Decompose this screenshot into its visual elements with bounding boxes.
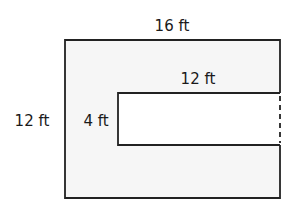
inner-rectangle-fill bbox=[118, 93, 280, 145]
inner-width-label: 12 ft bbox=[181, 70, 216, 88]
outer-height-label: 12 ft bbox=[15, 112, 50, 130]
outer-width-label: 16 ft bbox=[155, 17, 190, 35]
diagram-canvas: 16 ft 12 ft 12 ft 4 ft bbox=[0, 0, 291, 205]
inner-height-label: 4 ft bbox=[83, 112, 108, 130]
